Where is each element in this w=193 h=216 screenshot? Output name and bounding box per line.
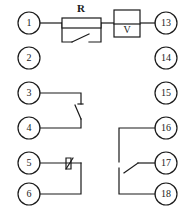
top-circuit: R V — [40, 2, 155, 42]
circuit-16-17-18 — [119, 128, 155, 194]
switch-blade-3-4 — [75, 105, 81, 119]
wire-terminal4-run — [40, 119, 81, 128]
diagram-canvas: 1 2 3 4 5 6 — [0, 0, 193, 216]
terminal-label: 2 — [27, 52, 32, 63]
terminal-4[interactable]: 4 — [18, 117, 40, 139]
circuit-5-6 — [40, 158, 81, 194]
circuit-3-4 — [40, 93, 83, 128]
terminal-18[interactable]: 18 — [155, 183, 177, 205]
terminal-15[interactable]: 15 — [155, 82, 177, 104]
terminal-wiring-diagram: 1 2 3 4 5 6 — [0, 0, 193, 216]
terminal-13[interactable]: 13 — [155, 12, 177, 34]
terminal-2[interactable]: 2 — [18, 47, 40, 69]
terminal-14[interactable]: 14 — [155, 47, 177, 69]
terminal-label: 15 — [161, 87, 171, 98]
resistor-body — [62, 18, 101, 28]
terminal-16[interactable]: 16 — [155, 117, 177, 139]
terminal-6[interactable]: 6 — [18, 183, 40, 205]
terminal-label: 17 — [161, 157, 171, 168]
terminal-17[interactable]: 17 — [155, 152, 177, 174]
terminal-label: 16 — [161, 122, 171, 133]
terminal-group-right: 13 14 15 16 17 18 — [155, 12, 177, 205]
voltmeter-label: V — [123, 24, 131, 35]
wire-terminal6-run — [40, 163, 81, 194]
terminal-label: 18 — [161, 188, 171, 199]
terminal-label: 1 — [27, 17, 32, 28]
terminal-label: 5 — [27, 157, 32, 168]
terminal-label: 14 — [161, 52, 171, 63]
terminal-label: 13 — [161, 17, 171, 28]
bypass-switch-blade — [72, 34, 89, 42]
wire-terminal16-run — [119, 128, 155, 162]
terminal-label: 3 — [27, 87, 32, 98]
terminal-label: 4 — [27, 122, 32, 133]
terminal-1[interactable]: 1 — [18, 12, 40, 34]
wire-terminal18-run — [119, 168, 155, 194]
terminal-5[interactable]: 5 — [18, 152, 40, 174]
terminal-label: 6 — [27, 188, 32, 199]
terminal-3[interactable]: 3 — [18, 82, 40, 104]
wire-terminal3-run — [40, 93, 81, 104]
changeover-switch-blade — [124, 163, 138, 173]
terminal-group-left: 1 2 3 4 5 6 — [18, 12, 40, 205]
resistor-label: R — [77, 2, 86, 14]
